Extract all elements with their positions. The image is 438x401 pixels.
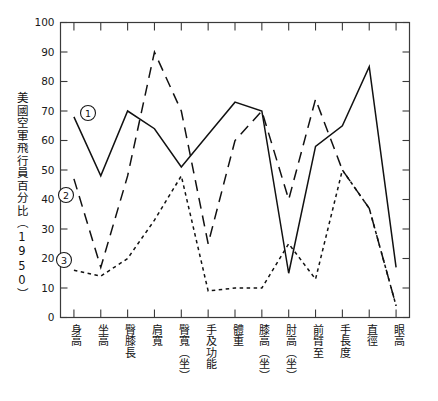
y-tick-label: 70 — [41, 105, 54, 117]
series-marker-1: 1 — [81, 106, 96, 121]
x-category-label-4: 肩寬 — [147, 324, 162, 347]
x-category-label-10: 前臂至 — [308, 324, 323, 358]
y-tick-label: 30 — [41, 223, 54, 235]
x-category-label-3: 臀膝長 — [120, 324, 135, 358]
y-tick-labels: 0102030405060708090100 — [34, 16, 54, 323]
series-line-3 — [74, 170, 396, 306]
x-category-label-2: 坐高 — [93, 324, 108, 347]
x-category-label-11: 手長度 — [335, 324, 350, 358]
series-marker-label: 2 — [63, 190, 69, 201]
x-category-label-9: 肘高（坐） — [281, 324, 296, 381]
y-axis-title: 美國空軍飛行員百分比（1950） — [8, 92, 28, 300]
y-tick-label: 60 — [41, 134, 54, 146]
y-tick-label: 40 — [41, 193, 54, 205]
x-category-label-12: 直徑 — [362, 324, 377, 347]
y-tick-label: 0 — [48, 311, 55, 323]
x-category-label-5: 臀寬（坐） — [174, 324, 189, 381]
series-marker-3: 3 — [57, 253, 72, 268]
series-marker-2: 2 — [59, 188, 74, 203]
y-tick-label: 20 — [41, 252, 54, 264]
y-tick-label: 50 — [41, 164, 54, 176]
x-category-label-6: 手及功能 — [201, 324, 216, 370]
y-tick-label: 10 — [41, 282, 54, 294]
series-marker-label: 3 — [61, 255, 67, 266]
series-line-1 — [74, 67, 396, 274]
axes-group — [61, 23, 410, 318]
chart-container: 美國空軍飛行員百分比（1950） 0102030405060708090100 … — [0, 0, 438, 401]
y-tick-label: 100 — [34, 16, 54, 28]
x-category-label-1: 身高 — [66, 324, 81, 347]
x-category-label-8: 膝高（坐） — [254, 324, 269, 381]
x-category-label-7: 體重 — [228, 324, 243, 347]
y-tick-label: 90 — [41, 46, 54, 58]
y-tick-label: 80 — [41, 75, 54, 87]
series-marker-label: 1 — [85, 108, 91, 119]
data-series-group — [74, 52, 396, 306]
x-category-label-13: 眼高 — [389, 324, 404, 347]
